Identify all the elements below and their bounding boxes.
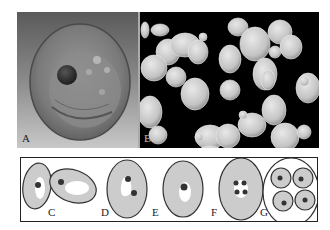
yeast-sem-image [140, 12, 319, 148]
schematic-panel: C D E F G [20, 157, 318, 222]
schematic-label-e: E [152, 206, 159, 218]
schematic-label-d: D [101, 206, 109, 218]
panel-label-a: A [22, 132, 30, 144]
schematic-label-f: F [211, 206, 217, 218]
schematic-label-g: G [260, 206, 268, 218]
panel-b-sem-micrograph: B [138, 12, 319, 148]
panel-a-rendered-cell: A [17, 12, 138, 148]
cell-render-image [17, 12, 138, 148]
panel-label-b: B [144, 132, 151, 144]
cell-cycle-schematic [21, 158, 317, 221]
schematic-label-c: C [48, 206, 55, 218]
